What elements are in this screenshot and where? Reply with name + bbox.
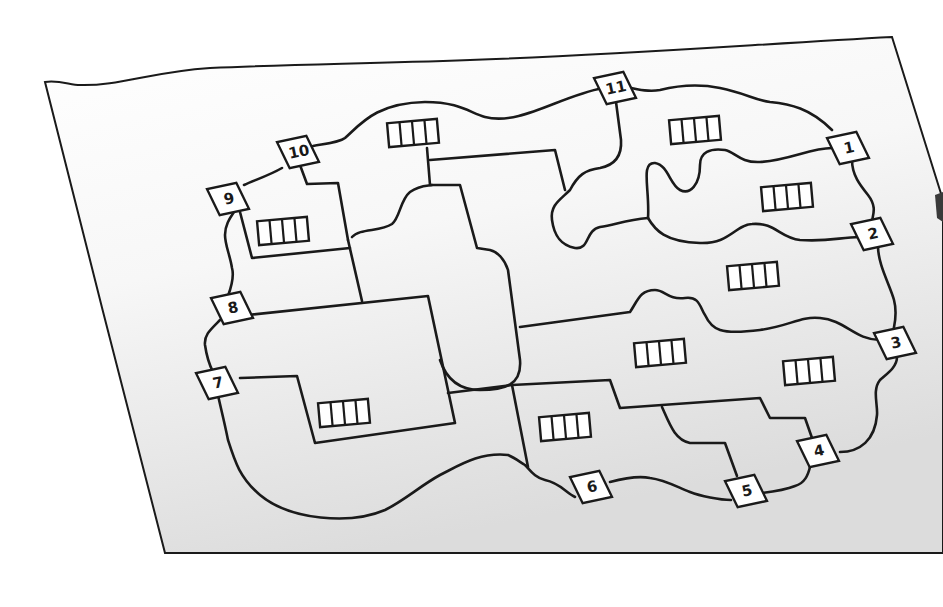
building-icon — [727, 262, 779, 290]
map-drawing: 1234567891011 — [0, 0, 943, 607]
building-icon — [761, 183, 813, 211]
building-icon — [318, 399, 370, 427]
building-icon — [387, 119, 439, 147]
building-icon — [783, 357, 835, 385]
building-icon — [539, 413, 591, 441]
map-sheet: 1234567891011 — [0, 0, 943, 607]
building-icon — [257, 217, 309, 245]
building-icon — [634, 339, 686, 367]
building-icon — [669, 116, 721, 144]
